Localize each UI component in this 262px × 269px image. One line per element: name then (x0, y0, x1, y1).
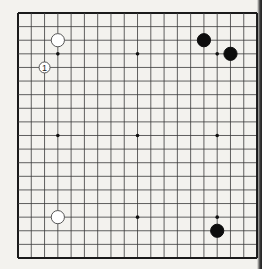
go-board: 1 (0, 0, 262, 269)
star-point (215, 134, 219, 138)
black-stone (224, 47, 237, 60)
star-point (215, 215, 219, 219)
star-point (136, 215, 140, 219)
star-point (56, 52, 60, 56)
move-number-label: 1 (42, 63, 47, 73)
star-point (56, 134, 60, 138)
black-stone (211, 224, 224, 237)
white-stone (51, 211, 64, 224)
star-point (215, 52, 219, 56)
black-stone (197, 34, 210, 47)
star-point (136, 52, 140, 56)
white-stone (51, 34, 64, 47)
star-point (136, 134, 140, 138)
